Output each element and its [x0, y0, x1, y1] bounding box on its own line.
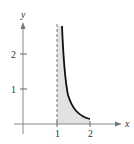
- chart-svg: 1 2 1 2 x y: [0, 0, 134, 144]
- x-axis-label: x: [124, 118, 130, 129]
- y-axis-label: y: [20, 9, 26, 20]
- y-axis-arrow-icon: [21, 22, 26, 29]
- x-tick-label-1: 1: [55, 128, 60, 139]
- x-axis-arrow-icon: [115, 122, 122, 127]
- y-tick-label-1: 1: [11, 84, 16, 95]
- x-tick-label-2: 2: [88, 128, 93, 139]
- y-tick-label-2: 2: [11, 49, 16, 60]
